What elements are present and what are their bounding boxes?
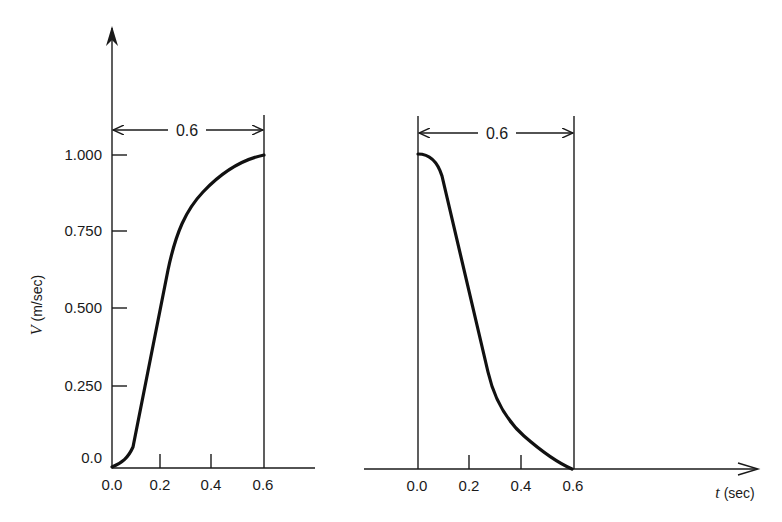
left-dimension-label: 0.6 — [176, 122, 198, 139]
x-axis-label: t(sec) — [715, 484, 755, 501]
x-tick-02: 0.2 — [150, 476, 171, 493]
right-x-tick-labels: 0.0 0.2 0.4 0.6 — [407, 477, 584, 494]
right-x-ticks — [469, 455, 521, 469]
x-tick-04: 0.4 — [201, 476, 222, 493]
right-panel: 0.0 0.2 0.4 0.6 0.6 t(sec) — [364, 116, 758, 501]
x-axis-unit: (sec) — [724, 485, 755, 501]
y-tick-0500: 0.500 — [64, 299, 102, 316]
acceleration-curve — [112, 155, 264, 467]
left-dimension: 0.6 — [113, 122, 263, 139]
y-axis-unit: (m/sec) — [29, 275, 45, 326]
right-x-tick-06: 0.6 — [563, 477, 584, 494]
left-x-tick-labels: 0.0 0.2 0.4 0.6 — [102, 476, 274, 493]
x-axis-symbol: t — [715, 484, 720, 501]
left-x-ticks — [160, 454, 211, 468]
deceleration-curve — [418, 154, 572, 469]
velocity-profile-figure: 1.000 0.750 0.500 0.250 0.0 0.0 0.2 0.4 … — [0, 0, 782, 522]
right-dimension: 0.6 — [419, 125, 573, 142]
x-tick-06: 0.6 — [253, 476, 274, 493]
y-axis-label: V (m/sec) — [28, 275, 45, 335]
right-x-tick-04: 0.4 — [511, 477, 532, 494]
y-tick-0250: 0.250 — [64, 377, 102, 394]
right-x-tick-00: 0.0 — [407, 477, 428, 494]
right-x-tick-02: 0.2 — [459, 477, 480, 494]
right-dimension-label: 0.6 — [486, 125, 508, 142]
y-tick-1000: 1.000 — [64, 146, 102, 163]
x-tick-00: 0.0 — [102, 476, 123, 493]
left-y-tick-labels: 1.000 0.750 0.500 0.250 0.0 — [64, 146, 102, 466]
y-tick-0750: 0.750 — [64, 222, 102, 239]
y-tick-0: 0.0 — [81, 449, 102, 466]
left-y-ticks — [112, 155, 127, 386]
left-panel: 1.000 0.750 0.500 0.250 0.0 0.0 0.2 0.4 … — [28, 26, 315, 493]
